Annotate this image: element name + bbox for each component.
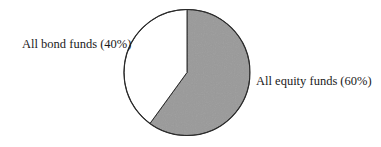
slice-label-equity: All equity funds (60%) [256,74,372,88]
pie-chart: All bond funds (40%) All equity funds (6… [0,0,381,147]
slice-label-bond: All bond funds (40%) [22,37,131,51]
